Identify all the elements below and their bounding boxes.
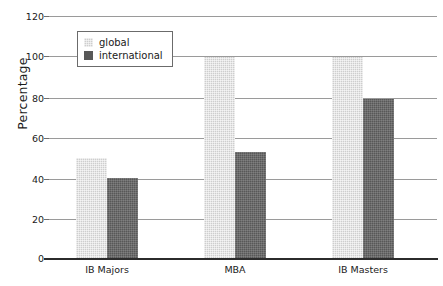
bar-global-mba [204,57,235,259]
bar-international-ib-masters [363,99,394,259]
y-tick-20: 20 [14,213,44,224]
legend-item-international: international [84,49,163,62]
x-axis-baseline [44,258,438,260]
legend-label-global: global [99,36,130,49]
x-tick-label-ib-masters: IB Masters [338,264,388,275]
legend-label-international: international [99,49,163,62]
chart-legend: global international [77,31,173,67]
legend-swatch-global-icon [84,38,93,47]
y-tick-40: 40 [14,173,44,184]
bar-international-mba [235,152,266,259]
y-axis-ticks: 0 20 40 60 80 100 120 [0,0,44,286]
x-tick-label-mba: MBA [224,264,245,275]
y-tick-0: 0 [14,253,44,264]
legend-swatch-international-icon [84,51,93,60]
bar-global-ib-majors [76,158,107,259]
y-tick-60: 60 [14,133,44,144]
bar-global-ib-masters [332,57,363,259]
y-tick-100: 100 [14,51,44,62]
bar-chart: Percentage 0 20 40 60 80 100 120 IB Majo… [0,0,443,286]
bar-international-ib-majors [107,178,138,259]
x-tick-label-ib-majors: IB Majors [85,264,129,275]
y-tick-120: 120 [14,10,44,21]
y-tick-80: 80 [14,92,44,103]
legend-item-global: global [84,36,163,49]
